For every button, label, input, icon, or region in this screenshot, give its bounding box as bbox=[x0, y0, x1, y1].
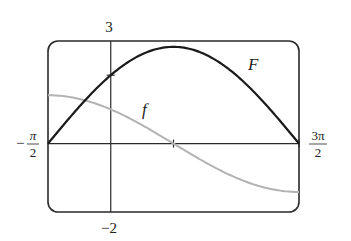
series-f-label: f bbox=[142, 100, 149, 119]
x-tick-label-left-minus: − bbox=[16, 135, 24, 151]
x-tick-label-left-denominator: 2 bbox=[30, 145, 37, 160]
y-tick-label-top: 3 bbox=[105, 19, 113, 35]
series-F-label: F bbox=[247, 55, 259, 74]
series-F-line bbox=[48, 47, 299, 144]
x-tick-label-right-numerator: 3π bbox=[311, 128, 325, 143]
chart: 3 −2 − π 2 3π 2 F f bbox=[0, 0, 351, 241]
y-tick-label-bottom: −2 bbox=[101, 220, 117, 236]
x-tick-label-left-numerator: π bbox=[30, 128, 37, 143]
x-tick-label-right-denominator: 2 bbox=[315, 145, 322, 160]
